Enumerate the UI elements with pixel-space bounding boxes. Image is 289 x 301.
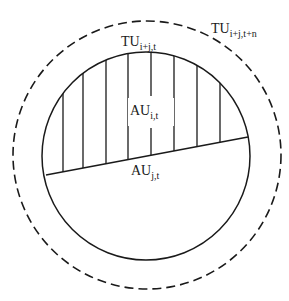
outer-dashed-circle xyxy=(13,21,281,289)
lower-segment-label: AUj,t xyxy=(131,163,160,181)
venn-diagram: TUi+j,t TUi+j,t+n AUi,t AUj,t xyxy=(0,0,289,301)
inner-circle-label: TUi+j,t xyxy=(121,34,156,52)
outer-circle-label: TUi+j,t+n xyxy=(211,21,257,39)
